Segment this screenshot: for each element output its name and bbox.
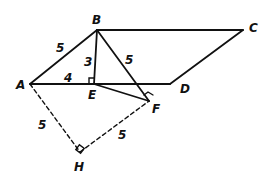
length-bf: 5 bbox=[125, 53, 133, 67]
length-hf: 5 bbox=[118, 128, 126, 142]
right-angle-f-icon bbox=[144, 92, 153, 95]
label-d: D bbox=[180, 82, 190, 96]
label-e: E bbox=[88, 88, 97, 102]
segment-bf bbox=[97, 30, 149, 101]
length-ah: 5 bbox=[38, 118, 46, 132]
segment-ef bbox=[94, 84, 149, 101]
segment-hf bbox=[80, 101, 149, 152]
label-b: B bbox=[92, 13, 101, 27]
segment-cd bbox=[170, 30, 243, 84]
length-be: 3 bbox=[84, 55, 92, 69]
segment-be bbox=[94, 30, 97, 84]
length-ae: 4 bbox=[63, 71, 72, 85]
label-h: H bbox=[74, 160, 84, 174]
label-c: C bbox=[249, 21, 258, 35]
label-a: A bbox=[15, 78, 25, 92]
geometry-diagram: A B C D E F H 5 4 3 5 5 5 bbox=[0, 0, 274, 185]
label-f: F bbox=[152, 102, 161, 116]
length-ab: 5 bbox=[56, 41, 64, 55]
right-angle-h-icon bbox=[76, 145, 84, 153]
